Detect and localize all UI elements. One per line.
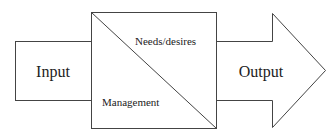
output-label: Output xyxy=(239,63,284,81)
diagonal-divider xyxy=(92,13,217,129)
lower-triangle-label: Management xyxy=(102,96,159,108)
diagram-canvas: Input Needs/desires Management Output xyxy=(0,0,336,137)
upper-triangle-label: Needs/desires xyxy=(135,35,196,47)
input-label: Input xyxy=(36,63,70,81)
